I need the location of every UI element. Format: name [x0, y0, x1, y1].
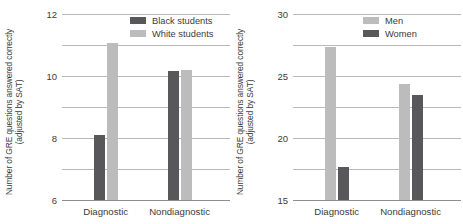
- y-axis-title-race: Number of GRE questions answered correct…: [0, 0, 28, 224]
- y-axis-tick-label: 8: [52, 132, 57, 143]
- y-axis-tick-label: 10: [46, 70, 57, 81]
- chart-panel-gender: Number of GRE questions answered correct…: [231, 0, 463, 224]
- plot-area-race: 024681012DiagnosticNondiagnostic: [62, 14, 230, 200]
- gridline-4: 4: [62, 138, 230, 139]
- bar: [412, 95, 423, 200]
- x-axis-group-label: Diagnostic: [314, 206, 359, 217]
- legend-item-men: Men: [363, 14, 417, 27]
- x-axis-group-label: Diagnostic: [83, 206, 128, 217]
- gridline-2: 2: [62, 169, 230, 170]
- gridline-0: 0: [293, 200, 461, 201]
- gridline-6: 6: [62, 107, 230, 108]
- bar: [399, 84, 410, 200]
- gridline-10: 10: [62, 45, 230, 46]
- gridline-5: 5: [293, 169, 461, 170]
- gridline-15: 15: [293, 107, 461, 108]
- legend-swatch-icon-white-students: [130, 30, 146, 37]
- legend-label-white-students: White students: [152, 29, 214, 39]
- bar: [181, 70, 192, 200]
- bar: [325, 47, 336, 200]
- bar: [94, 135, 105, 200]
- bar: [168, 71, 179, 200]
- legend-label-men: Men: [385, 16, 403, 26]
- y-axis-title-gender: Number of GRE questions answered correct…: [231, 0, 259, 224]
- legend-item-women: Women: [363, 27, 417, 40]
- y-axis-tick-label: 20: [277, 132, 288, 143]
- legend-label-black-students: Black students: [152, 16, 212, 26]
- y-axis-tick-label: 25: [277, 70, 288, 81]
- gridline-0: 0: [62, 200, 230, 201]
- y-axis-tick-label: 30: [277, 8, 288, 19]
- two-panel-bar-chart-figure: Number of GRE questions answered correct…: [0, 0, 463, 224]
- chart-panel-race: Number of GRE questions answered correct…: [0, 0, 232, 224]
- gridline-8: 8: [62, 76, 230, 77]
- legend-swatch-icon-women: [363, 30, 379, 37]
- legend-swatch-icon-black-students: [130, 17, 146, 24]
- legend-swatch-icon-men: [363, 17, 379, 24]
- legend-item-white-students: White students: [130, 27, 214, 40]
- y-axis-title-race-text: Number of GRE questions answered correct…: [4, 15, 25, 210]
- legend-race: Black students White students: [130, 14, 214, 40]
- y-axis-tick-label: 12: [46, 8, 57, 19]
- legend-label-women: Women: [385, 29, 417, 39]
- y-axis-tick-label: 15: [277, 194, 288, 205]
- x-axis-group-label: Nondiagnostic: [380, 206, 441, 217]
- y-axis-tick-label: 6: [52, 194, 57, 205]
- gridline-20: 20: [293, 76, 461, 77]
- y-axis-title-gender-text: Number of GRE questions answered correct…: [235, 15, 256, 210]
- x-axis-group-label: Nondiagnostic: [149, 206, 210, 217]
- gridline-10: 10: [293, 138, 461, 139]
- legend-gender: Men Women: [363, 14, 417, 40]
- bar: [107, 43, 118, 200]
- plot-area-gender: 051015202530DiagnosticNondiagnostic: [293, 14, 461, 200]
- legend-item-black-students: Black students: [130, 14, 214, 27]
- bar: [338, 167, 349, 200]
- gridline-25: 25: [293, 45, 461, 46]
